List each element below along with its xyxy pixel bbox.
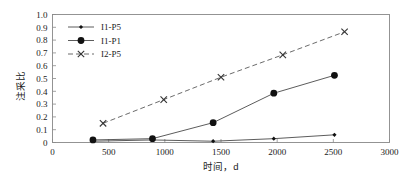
- y-tick-label: 0.4: [36, 87, 48, 97]
- data-point-marker: [90, 137, 97, 144]
- y-tick-label: 0.7: [36, 48, 48, 58]
- y-axis-title: 注采比: [15, 71, 26, 101]
- legend-label: I2-P5: [101, 49, 121, 59]
- x-tick-label: 0: [50, 147, 55, 157]
- x-tick-label: 2000: [268, 147, 287, 157]
- y-tick-label: 0.1: [36, 125, 47, 135]
- chart-figure: 00.10.20.30.40.50.60.70.80.91.0 05001000…: [0, 0, 417, 182]
- y-tick-label: 0.6: [36, 61, 48, 71]
- x-tick-label: 1000: [156, 147, 175, 157]
- x-tick-label: 3000: [381, 147, 400, 157]
- x-tick-label: 2500: [324, 147, 343, 157]
- line-chart: 00.10.20.30.40.50.60.70.80.91.0 05001000…: [0, 0, 417, 182]
- y-tick-label: 0: [43, 138, 48, 148]
- y-tick-label: 0.3: [36, 99, 48, 109]
- x-axis-title: 时间，d: [203, 161, 238, 172]
- data-point-marker: [210, 119, 217, 126]
- y-tick-label: 0.8: [36, 35, 48, 45]
- y-tick-label: 0.9: [36, 23, 48, 33]
- x-tick-label: 1500: [212, 147, 231, 157]
- y-tick-label: 0.5: [36, 74, 48, 84]
- data-point-marker: [331, 72, 338, 79]
- data-point-marker: [149, 135, 156, 142]
- legend-label: I1-P5: [101, 22, 121, 32]
- y-tick-label: 1.0: [36, 10, 48, 20]
- x-tick-label: 500: [102, 147, 116, 157]
- y-tick-label: 0.2: [36, 112, 47, 122]
- data-point-marker: [78, 37, 85, 44]
- legend-label: I1-P1: [101, 36, 121, 46]
- data-point-marker: [270, 90, 277, 97]
